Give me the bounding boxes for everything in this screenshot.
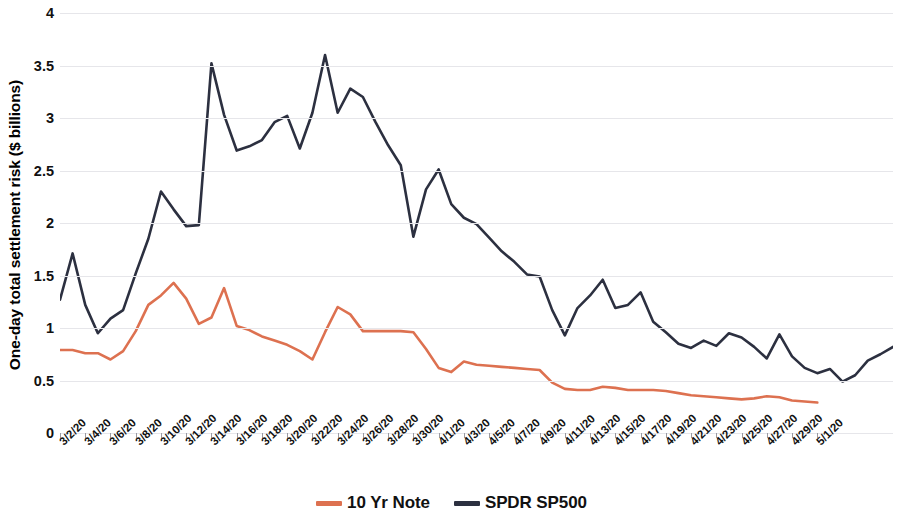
y-axis-tick-label: 1.5 — [6, 268, 54, 284]
y-axis-tick-label: 2 — [6, 215, 54, 231]
legend-label: 10 Yr Note — [347, 493, 430, 513]
legend-label: SPDR SP500 — [485, 493, 587, 513]
y-axis-tick-label: 0.5 — [6, 373, 54, 389]
y-axis-tick-label: 3.5 — [6, 58, 54, 74]
y-axis-tick-label: 4 — [6, 5, 54, 21]
gridline — [60, 118, 893, 119]
series-line — [60, 55, 893, 382]
x-axis-tick-labels: 3/2/203/4/203/6/203/8/203/10/203/12/203/… — [60, 439, 903, 494]
plot-area — [60, 13, 893, 433]
gridline — [60, 171, 893, 172]
gridline — [60, 328, 893, 329]
chart-legend: 10 Yr NoteSPDR SP500 — [0, 489, 903, 517]
y-axis-tick-label: 2.5 — [6, 163, 54, 179]
y-axis-tick-label: 0 — [6, 425, 54, 441]
gridline — [60, 381, 893, 382]
y-axis-tick-label: 1 — [6, 320, 54, 336]
legend-item[interactable]: 10 Yr Note — [316, 493, 430, 513]
gridline — [60, 66, 893, 67]
legend-item[interactable]: SPDR SP500 — [454, 493, 587, 513]
y-axis-tick-label: 3 — [6, 110, 54, 126]
settlement-risk-line-chart: One-day total settlement risk ($ billion… — [0, 0, 903, 517]
legend-swatch-icon — [316, 501, 342, 506]
series-line — [60, 283, 817, 403]
y-axis-tick-labels: 00.511.522.533.54 — [0, 13, 54, 433]
gridline — [60, 13, 893, 14]
legend-swatch-icon — [454, 501, 480, 506]
gridline — [60, 276, 893, 277]
gridline — [60, 223, 893, 224]
